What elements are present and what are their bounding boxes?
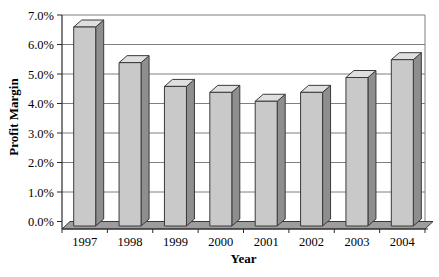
bar-side-face xyxy=(413,53,421,226)
y-tick-label: 0.0% xyxy=(28,215,54,229)
chart-plot-area: 0.0%1.0%2.0%3.0%4.0%5.0%6.0%7.0%19971998… xyxy=(0,0,439,277)
y-tick-label: 2.0% xyxy=(28,156,54,170)
x-tick-label: 1999 xyxy=(163,235,188,249)
bar-2001 xyxy=(255,94,285,226)
y-tick-label: 1.0% xyxy=(28,186,54,200)
bar-2004 xyxy=(391,53,421,226)
bar-1999 xyxy=(164,79,194,226)
x-axis-title: Year xyxy=(62,251,425,267)
x-tick-label: 2001 xyxy=(254,235,279,249)
profit-margin-bar-chart: 0.0%1.0%2.0%3.0%4.0%5.0%6.0%7.0%19971998… xyxy=(0,0,439,277)
bar-front-face xyxy=(255,101,277,226)
bar-side-face xyxy=(96,20,104,226)
y-tick-label: 4.0% xyxy=(28,97,54,111)
bar-side-face xyxy=(323,85,331,226)
x-tick-label: 2003 xyxy=(344,235,369,249)
bar-side-face xyxy=(186,79,194,226)
y-tick-label: 3.0% xyxy=(28,127,54,141)
bar-side-face xyxy=(141,56,149,226)
x-tick-label: 1997 xyxy=(72,235,97,249)
bar-front-face xyxy=(301,92,323,226)
bar-2003 xyxy=(346,71,376,227)
x-tick-label: 2004 xyxy=(390,235,416,249)
x-tick-label: 2002 xyxy=(299,235,324,249)
chart-floor xyxy=(62,222,433,230)
bar-front-face xyxy=(210,92,232,226)
bar-2000 xyxy=(210,85,240,226)
y-tick-label: 7.0% xyxy=(28,9,54,23)
bar-side-face xyxy=(232,85,240,226)
bar-side-face xyxy=(368,71,376,227)
bar-front-face xyxy=(119,63,141,226)
bar-front-face xyxy=(74,27,96,226)
x-tick-label: 2000 xyxy=(208,235,233,249)
bar-side-face xyxy=(277,94,285,226)
bar-front-face xyxy=(391,60,413,226)
bar-front-face xyxy=(164,86,186,226)
y-axis-title: Profit Margin xyxy=(6,57,22,177)
y-tick-label: 5.0% xyxy=(28,68,54,82)
y-tick-label: 6.0% xyxy=(28,38,54,52)
x-tick-label: 1998 xyxy=(118,235,143,249)
bar-1998 xyxy=(119,56,149,226)
bar-1997 xyxy=(74,20,104,226)
bar-2002 xyxy=(301,85,331,226)
bar-front-face xyxy=(346,78,368,227)
